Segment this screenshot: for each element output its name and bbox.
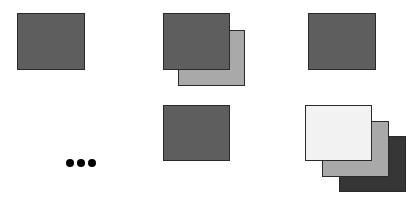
frame-top-left [17, 13, 85, 70]
ellipsis-dots [66, 159, 96, 167]
frame-bottom-right-front [305, 105, 372, 161]
frame-top-middle-front [163, 13, 230, 70]
dot-icon [88, 159, 96, 167]
dot-icon [66, 159, 74, 167]
frame-bottom-middle [163, 105, 230, 161]
frame-top-right [308, 13, 376, 70]
diagram-canvas [0, 0, 419, 203]
dot-icon [77, 159, 85, 167]
